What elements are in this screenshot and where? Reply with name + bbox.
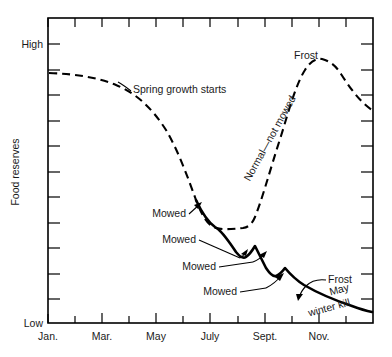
y-axis-low-label: Low	[24, 317, 44, 329]
y-axis-title: Food reserves	[9, 138, 21, 205]
annotation-frost-upper: Frost	[294, 49, 318, 61]
top-tick-marks	[48, 18, 346, 27]
y-axis-high-label: High	[21, 38, 43, 50]
x-tick-label-sept: Sept.	[253, 330, 278, 342]
right-tick-marks	[361, 44, 373, 299]
bottom-tick-marks	[48, 313, 346, 323]
plot-frame	[48, 18, 373, 323]
x-tick-label-may: May	[146, 330, 167, 342]
x-tick-label-jan: Jan.	[38, 330, 58, 342]
chart-figure: High Low Food reserves Jan. Mar. May Jul…	[0, 0, 392, 357]
x-tick-label-mar: Mar.	[92, 330, 112, 342]
food-reserves-chart: High Low Food reserves Jan. Mar. May Jul…	[0, 0, 392, 357]
annotation-mowed-4: Mowed	[203, 285, 237, 297]
x-tick-label-july: July	[201, 330, 220, 342]
annotation-mowed-2: Mowed	[162, 233, 196, 245]
annotation-spring-growth-starts: Spring growth starts	[133, 83, 226, 95]
left-tick-marks	[48, 44, 60, 299]
annotation-mowed-3: Mowed	[182, 260, 216, 272]
x-tick-label-nov: Nov.	[309, 330, 330, 342]
annotation-mowed-1: Mowed	[152, 207, 186, 219]
annotation-winter-kill: winter kill	[306, 296, 352, 319]
